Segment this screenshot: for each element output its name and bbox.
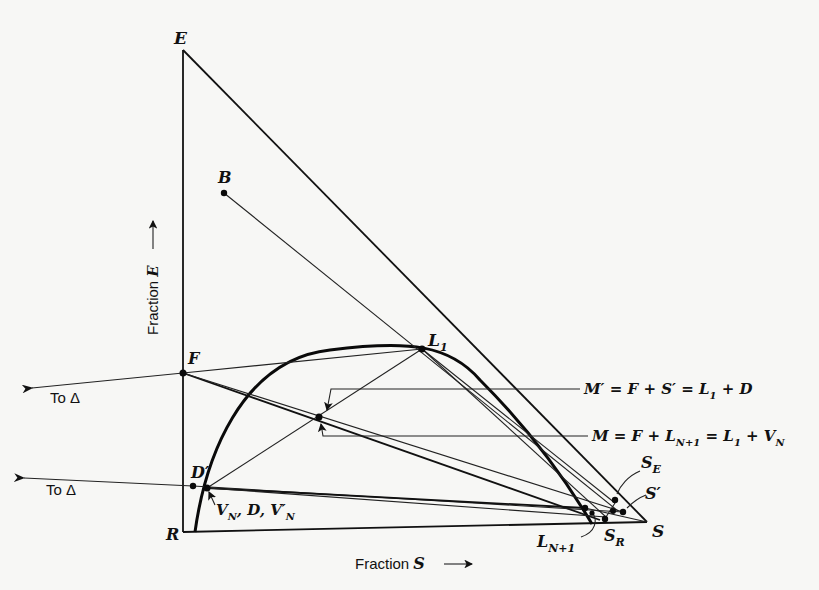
- label-to-delta-lower: To Δ: [46, 481, 76, 498]
- point-l1: [419, 346, 426, 353]
- callout-m: [321, 424, 588, 436]
- point-ln1-b: [589, 510, 594, 515]
- line-f-l1: [183, 349, 422, 373]
- svg-text:Fraction S: Fraction S: [355, 554, 425, 573]
- point-ln1: [582, 505, 588, 511]
- point-sprime: [620, 509, 626, 515]
- label-r: R: [165, 525, 179, 544]
- svg-text:Fraction E: Fraction E: [144, 265, 162, 335]
- line-l1-sr: [422, 349, 606, 517]
- point-sr: [602, 516, 608, 522]
- callout-se: [617, 471, 640, 494]
- axis-label-fraction-s: Fraction S: [355, 554, 472, 573]
- point-d-prime: [190, 483, 196, 489]
- label-ln1: LN+1: [536, 532, 575, 555]
- callout-m-prime: [327, 389, 580, 410]
- label-se: SE: [641, 453, 662, 476]
- line-l1-se: [422, 349, 615, 503]
- hypotenuse-e-to-s: [183, 50, 647, 522]
- point-se: [612, 497, 618, 503]
- axis-r-to-s: [183, 522, 647, 532]
- label-s: S: [652, 521, 664, 541]
- callout-vn: [209, 492, 215, 505]
- point-vn: [204, 485, 211, 492]
- callout-sprime: [627, 495, 646, 508]
- point-b: [221, 190, 227, 196]
- point-m: [316, 414, 323, 421]
- point-se-b: [610, 508, 616, 514]
- label-vn-d-vn-prime: VN, D, V′N: [216, 501, 296, 522]
- label-d-prime: D′: [190, 463, 210, 482]
- label-sprime: S′: [645, 484, 662, 503]
- line-l1-vn: [207, 349, 422, 488]
- line-to-delta-upper: [32, 373, 183, 388]
- label-b: B: [217, 168, 232, 187]
- label-e: E: [173, 28, 188, 48]
- label-f: F: [187, 349, 201, 368]
- equation-m: M = F + LN+1 = L1 + VN: [591, 427, 786, 448]
- point-f: [180, 370, 187, 377]
- label-sr: SR: [604, 526, 625, 549]
- equation-m-prime: M′ = F + S′ = L1 + D: [583, 380, 753, 401]
- label-to-delta-upper: To Δ: [50, 389, 80, 406]
- ternary-extraction-diagram: E R S B F D′ L1 LN+1 SE S′ SR VN, D, V′N…: [0, 0, 819, 590]
- axis-label-fraction-e: Fraction E: [144, 221, 162, 335]
